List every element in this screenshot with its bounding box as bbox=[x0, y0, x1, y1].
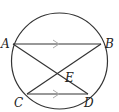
circle-diagram: A B C D E bbox=[0, 0, 119, 112]
label-c: C bbox=[14, 96, 23, 110]
label-d: D bbox=[83, 96, 94, 110]
chord-ad bbox=[13, 44, 88, 94]
label-e: E bbox=[64, 71, 74, 85]
label-a: A bbox=[0, 37, 10, 51]
label-b: B bbox=[104, 37, 114, 51]
chord-bc bbox=[27, 44, 101, 94]
